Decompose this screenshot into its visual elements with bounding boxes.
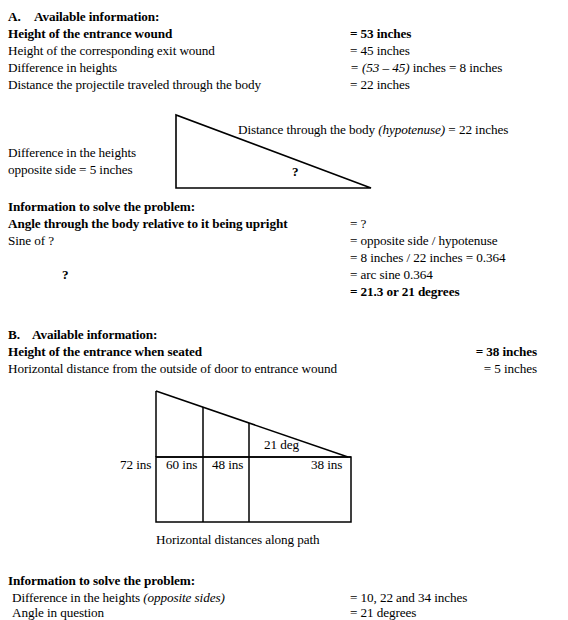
- hypotenuse-label-pre: Distance through the body: [238, 122, 378, 137]
- diagram-b-height-label-72: 72 ins: [120, 457, 151, 472]
- triangle-a-hypotenuse-label: Distance through the body (hypotenuse) =…: [238, 122, 508, 137]
- section-b-heading: Available information:: [32, 327, 157, 342]
- section-a-label: A.: [8, 9, 21, 24]
- solve-a-angle-label: Angle through the body relative to it be…: [8, 216, 287, 231]
- row-entrance-seated-value: = 38 inches: [425, 344, 537, 359]
- triangle-a-opposite-label-line1: Difference in the heights: [8, 145, 136, 160]
- section-b-solve-heading: Information to solve the problem:: [8, 573, 195, 588]
- solve-b-opposite-sides-label: Difference in the heights (opposite side…: [12, 590, 225, 605]
- triangle-a-angle-marker: ?: [292, 164, 299, 179]
- solve-a-sine-label: Sine of ?: [8, 233, 54, 248]
- row-horizontal-distance-label: Horizontal distance from the outside of …: [8, 361, 337, 376]
- solve-a-sine-computation: = 8 inches / 22 inches = 0.364: [350, 250, 505, 265]
- row-entrance-wound-label: Height of the entrance wound: [8, 26, 172, 41]
- diagram-stepped-path-triangle: [0, 385, 568, 530]
- row-distance-traveled-label: Distance the projectile traveled through…: [8, 77, 261, 92]
- row-horizontal-distance-value: = 5 inches: [425, 361, 537, 376]
- solve-b-label-italic: (opposite sides): [143, 590, 225, 605]
- diagram-b-caption: Horizontal distances along path: [156, 532, 320, 547]
- row-difference-heights-label: Difference in heights: [8, 60, 117, 75]
- row-exit-wound-value: = 45 inches: [350, 43, 410, 58]
- diagram-b-height-label-60: 60 ins: [166, 457, 197, 472]
- row-entrance-wound-value: = 53 inches: [350, 26, 411, 41]
- solve-a-question-marker: ?: [62, 267, 69, 282]
- hypotenuse-word: (hypotenuse): [378, 122, 445, 137]
- diagram-b-svg: [0, 385, 568, 530]
- triangle-a-opposite-label-line2: opposite side = 5 inches: [8, 162, 132, 177]
- solve-a-sine-formula: = opposite side / hypotenuse: [350, 233, 498, 248]
- row-distance-traveled-value: = 22 inches: [350, 77, 410, 92]
- section-a-heading: Available information:: [34, 9, 159, 24]
- difference-expression: = (53 – 45): [350, 60, 409, 75]
- solve-a-angle-value: = ?: [350, 216, 366, 231]
- solve-a-answer: = 21.3 or 21 degrees: [350, 284, 459, 299]
- diagram-b-height-label-38: 38 ins: [311, 457, 342, 472]
- section-a-solve-heading: Information to solve the problem:: [8, 199, 195, 214]
- solve-b-angle-label: Angle in question: [12, 605, 104, 620]
- difference-result: inches = 8 inches: [409, 60, 502, 75]
- diagram-b-angle-label: 21 deg: [264, 437, 299, 452]
- solve-b-label-pre: Difference in the heights: [12, 590, 143, 605]
- path-slope-line: [156, 391, 348, 457]
- solve-b-opposite-sides-value: = 10, 22 and 34 inches: [350, 590, 467, 605]
- hypotenuse-label-post: = 22 inches: [445, 122, 508, 137]
- solve-b-angle-value: = 21 degrees: [350, 605, 416, 620]
- solve-a-arcsine: = arc sine 0.364: [350, 267, 433, 282]
- row-exit-wound-label: Height of the corresponding exit wound: [8, 43, 215, 58]
- document-page: A. Available information: Height of the …: [0, 0, 568, 620]
- row-difference-heights-value: = (53 – 45) inches = 8 inches: [350, 60, 502, 75]
- row-entrance-seated-label: Height of the entrance when seated: [8, 344, 202, 359]
- section-b-label: B.: [8, 327, 20, 342]
- diagram-b-height-label-48: 48 ins: [212, 457, 243, 472]
